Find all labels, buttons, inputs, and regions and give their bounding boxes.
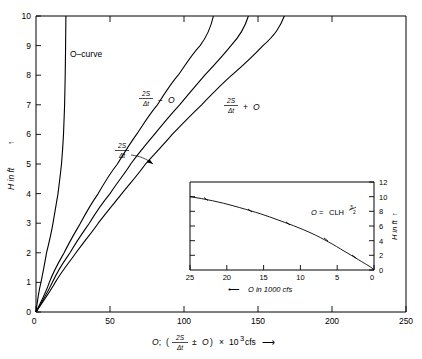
inset-y-axis-arrow-icon: ↑ [390,212,399,216]
main-x-tick-label: 250 [399,316,413,326]
main-y-tick-label: 9 [26,41,31,51]
x-axis-title-tail-symbol: O [202,337,209,347]
inset-equation-equals: = [319,208,324,217]
inset-x-tick-label: 5 [335,273,339,282]
x-axis-title-open-paren: ( [166,337,169,347]
annotation-2s-dt-plus-o-denominator: Δt [227,107,235,114]
main-y-tick-label: 8 [26,70,31,80]
main-annotations: O–curve 2S Δt − O 2S Δt + O 2S Δt [70,49,260,164]
inset-y-axis-title-label: H in ft [390,219,399,240]
main-x-tick-label: 100 [177,316,191,326]
main-y-axis-title: H in ft ↑ [6,141,16,190]
figure-container: 0 1 2 3 4 5 6 7 8 9 10 0 50 100 [0,0,422,359]
x-axis-title-arrow-icon: ⟶ [262,337,275,347]
annotation-2s-dt-minus-o-denominator: Δt [142,100,150,107]
annotation-2s-dt-minus-o-numerator: 2S [141,90,151,97]
inset-x-tick-label: 25 [186,273,194,282]
main-y-ticks: 0 1 2 3 4 5 6 7 8 9 10 [22,11,41,317]
inset-x-tick-label: 10 [296,273,304,282]
main-x-tick-label: 150 [251,316,265,326]
main-y-tick-label: 10 [22,11,32,21]
annotation-2s-dt-plus-o-tail: O [253,102,260,112]
inset-y-tick-label: 4 [379,237,383,246]
x-axis-title-plusminus: ± [192,337,197,347]
inset-x-tick-label: 15 [259,273,267,282]
x-axis-title-base: 10 [229,337,239,347]
annotation-2s-dt-numerator: 2S [117,142,127,149]
x-axis-title-frac-den: Δt [176,344,184,351]
inset-y-axis-title: H in ft ↑ [390,212,399,240]
inset-y-tick-label: 2 [379,251,383,260]
main-y-tick-label: 5 [26,159,31,169]
annotation-o-curve: O–curve [70,49,102,59]
annotation-2s-dt: 2S Δt [115,142,153,164]
main-y-tick-label: 4 [26,189,31,199]
inset-x-axis-title-text: O in 1000 cfs [248,285,292,294]
x-axis-title-exponent: 3 [240,334,244,343]
x-axis-title-unit: cfs [245,337,256,347]
annotation-2s-dt-minus-o-operator: − [158,95,163,105]
inset-x-tick-label: 20 [223,273,231,282]
inset-chart: 0 2 4 6 8 10 12 [186,178,399,296]
inset-x-tick-label: 0 [370,273,374,282]
inset-background [186,178,382,296]
inset-x-axis-title-label: O in 1000 cfs [248,285,292,294]
main-y-tick-label: 3 [26,218,31,228]
inset-equation-lhs: O [311,208,317,217]
y-axis-title-text: H in ft [6,167,16,190]
main-y-tick-label: 1 [26,277,31,287]
x-axis-title-separator: ; [159,337,161,347]
inset-x-axis-arrow-icon: ⟵ [228,285,240,294]
inset-equation-rhs: CLH [329,208,344,217]
annotation-2s-dt-denominator: Δt [118,152,126,159]
main-x-tick-label: 50 [105,316,115,326]
annotation-2s-dt-minus-o-tail: O [168,95,175,105]
main-x-tick-label: 0 [32,316,37,326]
inset-x-axis-title: ⟵ O in 1000 cfs [228,285,292,294]
main-x-axis-title: O; ( 2S Δt ± O ) × 10 3 cfs ⟶ [152,334,275,351]
inset-y-tick-label: 10 [379,193,387,202]
main-y-tick-label: 0 [26,307,31,317]
x-axis-title-times: × [219,337,224,347]
x-axis-title-frac-num: 2S [175,334,185,341]
y-axis-title-label: H in ft [6,167,16,190]
x-axis-title-lead: O; [152,337,161,347]
main-y-tick-label: 6 [26,129,31,139]
x-axis-title-close-paren: ) [210,337,213,347]
y-axis-title-arrow-icon: ↑ [6,141,16,145]
main-x-tick-label: 200 [325,316,339,326]
inset-y-axis-title-text: H in ft [390,219,399,240]
inset-y-tick-label: 12 [379,178,387,187]
inset-y-tick-label: 6 [379,222,383,231]
chart-svg: 0 1 2 3 4 5 6 7 8 9 10 0 50 100 [0,0,422,359]
inset-y-tick-label: 8 [379,207,383,216]
main-y-tick-label: 2 [26,248,31,258]
inset-equation-exponent-denominator: 2 [353,209,356,215]
main-y-tick-label: 7 [26,100,31,110]
annotation-2s-dt-plus-o: 2S Δt + O [224,97,260,114]
annotation-2s-dt-plus-o-operator: + [243,102,248,112]
annotation-2s-dt-plus-o-numerator: 2S [226,97,236,104]
inset-y-tick-label: 0 [379,266,383,275]
